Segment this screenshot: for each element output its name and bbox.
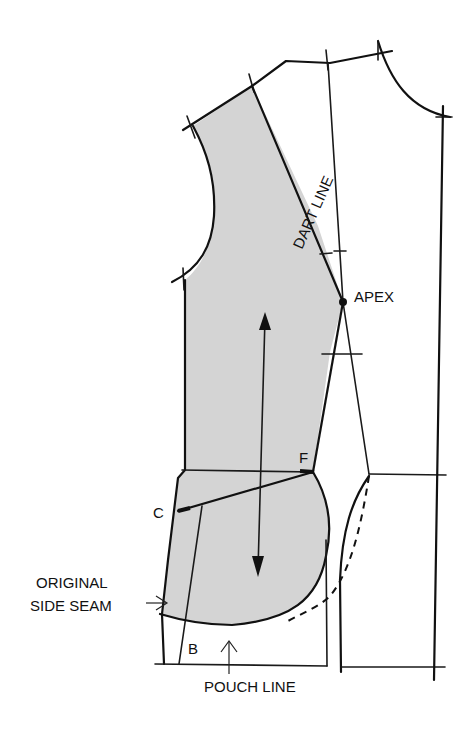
pouch-line-label: POUCH LINE [204,678,296,695]
pouch-right-vertical [326,540,327,666]
point-f-label: F [299,449,308,466]
apex-point[interactable] [339,298,347,306]
dart-notch [320,253,332,254]
hemline-left [155,664,327,666]
center-front-line [434,106,443,680]
original-side-seam-label-1: ORIGINAL [36,574,108,591]
original-side-seam-label-2: SIDE SEAM [30,597,112,614]
apex-label: APEX [354,288,394,305]
waistline-right [369,474,446,475]
shaded-side-panel [162,86,343,625]
point-b-label: B [188,640,198,657]
bust-guide-line [328,63,369,474]
pattern-diagram: APEX DART LINE F C B POUCH LINE ORIGINAL… [0,0,476,749]
point-c-label: C [153,504,164,521]
armhole-tick [183,268,184,290]
